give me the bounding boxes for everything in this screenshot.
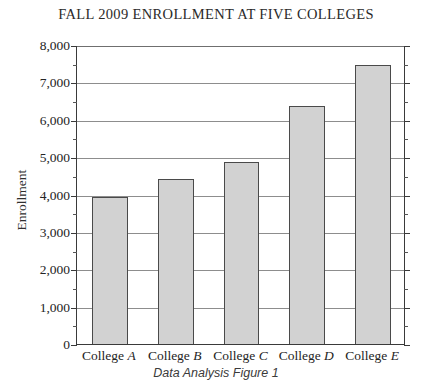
axis-tick-minor bbox=[73, 289, 77, 290]
y-axis-tick-label: 7,000 bbox=[10, 75, 70, 91]
y-axis-tick-label: 4,000 bbox=[10, 188, 70, 204]
axis-tick-major bbox=[404, 308, 410, 309]
axis-tick-minor bbox=[404, 139, 408, 140]
x-axis-tick-label: College D bbox=[279, 348, 334, 364]
axis-tick-minor bbox=[404, 65, 408, 66]
plot-area bbox=[76, 46, 405, 345]
axis-tick-minor bbox=[404, 289, 408, 290]
bar bbox=[355, 65, 391, 345]
axis-tick-minor bbox=[404, 177, 408, 178]
x-axis-tick-label: College E bbox=[345, 348, 399, 364]
axis-tick-minor bbox=[404, 252, 408, 253]
x-axis-tick-label: College B bbox=[148, 348, 202, 364]
x-axis-tick-label: College C bbox=[213, 348, 267, 364]
axis-tick-major bbox=[404, 196, 410, 197]
bar bbox=[224, 162, 260, 345]
axis-tick-major bbox=[404, 233, 410, 234]
y-axis-tick-label: 5,000 bbox=[10, 150, 70, 166]
axis-tick-minor bbox=[73, 326, 77, 327]
axis-bottom-line bbox=[77, 344, 404, 345]
axis-tick-minor bbox=[73, 252, 77, 253]
y-axis-tick-label: 6,000 bbox=[10, 113, 70, 129]
bar bbox=[92, 197, 128, 345]
axis-tick-major bbox=[71, 121, 77, 122]
axis-tick-major bbox=[404, 46, 410, 47]
axis-tick-major bbox=[404, 121, 410, 122]
axis-tick-major bbox=[404, 345, 410, 346]
y-axis-tick-label: 0 bbox=[10, 337, 70, 353]
bar bbox=[158, 179, 194, 345]
y-axis-tick-label: 8,000 bbox=[10, 38, 70, 54]
chart-title: FALL 2009 ENROLLMENT AT FIVE COLLEGES bbox=[0, 6, 432, 23]
bar bbox=[289, 106, 325, 345]
axis-tick-minor bbox=[404, 326, 408, 327]
axis-tick-minor bbox=[73, 214, 77, 215]
axis-tick-minor bbox=[404, 102, 408, 103]
figure-container: FALL 2009 ENROLLMENT AT FIVE COLLEGES En… bbox=[0, 0, 432, 388]
axis-tick-major bbox=[404, 270, 410, 271]
axis-tick-minor bbox=[73, 139, 77, 140]
axis-tick-minor bbox=[73, 177, 77, 178]
x-axis-tick-label: College A bbox=[82, 348, 136, 364]
y-axis-tick-label: 3,000 bbox=[10, 225, 70, 241]
axis-tick-minor bbox=[404, 214, 408, 215]
axis-tick-major bbox=[71, 158, 77, 159]
x-axis-tick-labels: College ACollege BCollege CCollege DColl… bbox=[76, 348, 405, 368]
axis-tick-major bbox=[71, 233, 77, 234]
y-axis-tick-label: 1,000 bbox=[10, 300, 70, 316]
axis-tick-major bbox=[71, 196, 77, 197]
axis-tick-minor bbox=[73, 102, 77, 103]
axis-tick-major bbox=[71, 83, 77, 84]
figure-caption: Data Analysis Figure 1 bbox=[0, 366, 432, 380]
y-axis-tick-label: 2,000 bbox=[10, 262, 70, 278]
axis-tick-major bbox=[404, 158, 410, 159]
axis-tick-minor bbox=[73, 65, 77, 66]
axis-tick-major bbox=[404, 83, 410, 84]
axis-top-line bbox=[77, 46, 404, 47]
axis-tick-major bbox=[71, 308, 77, 309]
axis-tick-major bbox=[71, 270, 77, 271]
axis-tick-major bbox=[71, 345, 77, 346]
